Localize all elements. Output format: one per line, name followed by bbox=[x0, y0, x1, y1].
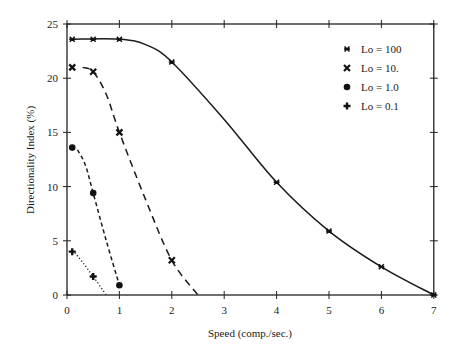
y-tick-label: 10 bbox=[47, 181, 59, 193]
star-marker-icon bbox=[326, 229, 332, 234]
x-tick-label: 4 bbox=[274, 304, 280, 316]
x-tick-label: 5 bbox=[326, 304, 332, 316]
legend-label: Lo = 1.0 bbox=[361, 81, 399, 93]
legend-label: Lo = 10. bbox=[361, 62, 399, 74]
plus-marker-icon bbox=[344, 103, 351, 110]
chart-canvas: 012345670510152025 Lo = 100Lo = 10.Lo = … bbox=[0, 0, 463, 350]
x-tick-label: 3 bbox=[221, 304, 227, 316]
y-tick-label: 0 bbox=[53, 289, 59, 301]
series-line-0 bbox=[72, 39, 434, 295]
legend-label: Lo = 100 bbox=[361, 43, 402, 55]
y-axis-label: Directionality Index (%) bbox=[24, 106, 37, 214]
star-marker-icon bbox=[169, 59, 175, 64]
circle-marker-icon bbox=[69, 144, 76, 151]
legend: Lo = 100Lo = 10.Lo = 1.0Lo = 0.1 bbox=[344, 43, 402, 112]
x-marker-icon bbox=[69, 64, 75, 70]
series-curves bbox=[72, 39, 434, 295]
y-tick-label: 25 bbox=[47, 18, 59, 30]
legend-label: Lo = 0.1 bbox=[361, 100, 399, 112]
chart: 012345670510152025 Lo = 100Lo = 10.Lo = … bbox=[0, 0, 463, 350]
y-tick-label: 5 bbox=[53, 235, 59, 247]
plus-marker-icon bbox=[69, 248, 76, 255]
star-marker-icon bbox=[90, 37, 96, 42]
series-line-3 bbox=[75, 253, 106, 295]
star-marker-icon bbox=[344, 47, 350, 52]
series-line-2 bbox=[77, 150, 119, 285]
star-marker-icon bbox=[378, 264, 384, 269]
x-axis-label: Speed (comp./sec.) bbox=[208, 327, 292, 340]
x-tick-label: 7 bbox=[431, 304, 437, 316]
x-marker-icon bbox=[344, 65, 350, 71]
series-line-1 bbox=[83, 67, 198, 295]
x-tick-label: 0 bbox=[64, 304, 70, 316]
circle-marker-icon bbox=[116, 282, 123, 289]
x-marker-icon bbox=[169, 257, 175, 263]
y-tick-label: 15 bbox=[47, 126, 59, 138]
star-marker-icon bbox=[116, 37, 122, 42]
star-marker-icon bbox=[69, 37, 75, 42]
circle-marker-icon bbox=[90, 190, 97, 197]
star-marker-icon bbox=[274, 180, 280, 185]
series-markers bbox=[69, 37, 437, 298]
x-tick-label: 1 bbox=[117, 304, 123, 316]
circle-marker-icon bbox=[344, 84, 351, 91]
y-tick-label: 20 bbox=[47, 72, 59, 84]
plus-marker-icon bbox=[90, 273, 97, 280]
x-marker-icon bbox=[90, 69, 96, 75]
x-tick-label: 6 bbox=[379, 304, 385, 316]
x-tick-label: 2 bbox=[169, 304, 175, 316]
